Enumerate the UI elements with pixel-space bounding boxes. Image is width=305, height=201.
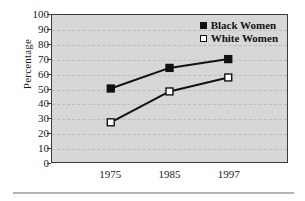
data-point-marker	[107, 119, 114, 126]
y-axis-tick-mark	[47, 29, 51, 30]
y-axis-tick-mark	[47, 103, 51, 104]
y-axis-tick-label: 50	[9, 83, 49, 95]
y-axis-tick-label: 80	[9, 38, 49, 50]
plot-area: Black Women White Women	[51, 14, 288, 163]
y-axis-tick-mark	[47, 89, 51, 90]
data-point-marker	[225, 74, 232, 81]
y-axis-tick-mark	[47, 163, 51, 164]
y-axis-tick-mark	[47, 14, 51, 15]
legend-label-white-women: White Women	[211, 32, 278, 45]
x-axis-tick-label: 1975	[80, 168, 140, 180]
data-point-marker	[166, 88, 173, 95]
data-point-marker	[225, 56, 232, 63]
y-axis-tick-label: 90	[9, 23, 49, 35]
series-line	[111, 59, 229, 88]
y-axis-tick-label: 30	[9, 112, 49, 124]
x-axis-tick-label: 1985	[140, 168, 200, 180]
y-axis-tick-label: 10	[9, 142, 49, 154]
y-axis-tick-label: 60	[9, 68, 49, 80]
y-axis-tick-label: 20	[9, 127, 49, 139]
filled-square-marker-icon	[200, 22, 207, 29]
bottom-divider	[13, 192, 294, 194]
y-axis-tick-mark	[47, 148, 51, 149]
y-axis-tick-label: 70	[9, 53, 49, 65]
y-axis-tick-mark	[47, 118, 51, 119]
data-point-marker	[107, 85, 114, 92]
y-axis-tick-mark	[47, 59, 51, 60]
chart-legend: Black Women White Women	[198, 18, 281, 46]
y-axis-tick-mark	[47, 133, 51, 134]
open-square-marker-icon	[200, 35, 207, 42]
y-axis-tick-label: 40	[9, 97, 49, 109]
series-line	[111, 77, 229, 122]
legend-label-black-women: Black Women	[211, 19, 277, 32]
chart-figure: Percentage Black Women White Women 01020…	[0, 0, 305, 201]
y-axis-tick-mark	[47, 44, 51, 45]
legend-item-white-women: White Women	[200, 32, 278, 45]
x-axis-tick-label: 1997	[199, 168, 259, 180]
y-axis-tick-label: 0	[9, 157, 49, 169]
data-point-marker	[166, 64, 173, 71]
y-axis-tick-label: 100	[9, 8, 49, 20]
y-axis-tick-mark	[47, 74, 51, 75]
legend-item-black-women: Black Women	[200, 19, 278, 32]
